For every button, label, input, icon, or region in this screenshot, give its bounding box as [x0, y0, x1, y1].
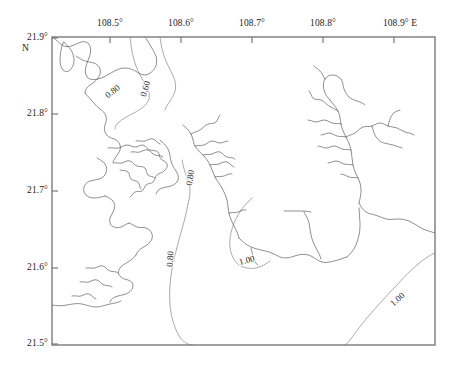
y-axis-hemisphere-label: N: [22, 43, 29, 53]
x-axis-label-108-9-east: 108.9° E: [383, 18, 417, 28]
plot-background: [52, 37, 435, 345]
x-axis-label-108-6: 108.6°: [168, 18, 194, 28]
y-axis-label-21-5: 21.5°: [10, 338, 48, 348]
y-axis-label-21-6: 21.6°: [10, 262, 48, 272]
y-axis-label-21-8: 21.8°: [10, 108, 48, 118]
map-canvas: 0.80 0.60 0.80 0.80 1.00 1.00: [0, 0, 453, 368]
y-axis-label-21-7: 21.7°: [10, 185, 48, 195]
contour-label-0-80-south: 0.80: [165, 250, 176, 267]
y-axis-label-21-9: 21.9°: [10, 32, 48, 42]
x-axis-label-108-7: 108.7°: [239, 18, 265, 28]
x-axis-label-108-8: 108.8°: [310, 18, 336, 28]
x-axis-label-108-5: 108.5°: [97, 18, 123, 28]
contour-map-figure: 0.80 0.60 0.80 0.80 1.00 1.00 108.5° 108…: [0, 0, 453, 368]
